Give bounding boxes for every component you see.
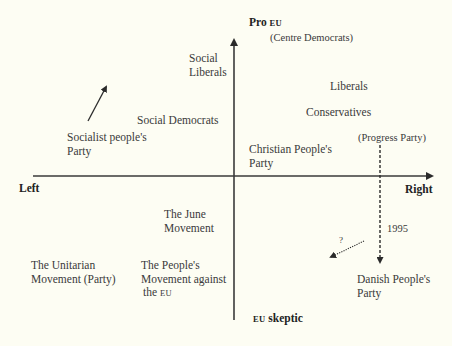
party-peoples-movement-against-eu: The People's Movement against the EU [141,259,226,301]
axis-label-pro-eu: Pro EU [249,16,282,31]
uncertain-shift-arrow [331,241,364,257]
party-danish-peoples-party: Danish People's Party [357,273,430,300]
party-liberals: Liberals [330,80,368,94]
party-social-liberals: Social Liberals [189,52,227,79]
party-socialist-peoples-party: Socialist people's Party [67,131,147,158]
socialist-shift-arrow [88,87,106,121]
year-annotation: 1995 [387,222,408,236]
axis-label-eu-skeptic: EU skeptic [253,312,303,327]
party-christian-peoples-party: Christian People's Party [249,143,332,170]
party-social-democrats: Social Democrats [137,114,218,128]
axis-label-right: Right [405,183,432,197]
party-conservatives: Conservatives [306,106,371,120]
axis-label-left: Left [19,182,39,196]
question-annotation: ? [339,234,343,248]
party-progress-party: (Progress Party) [358,131,426,145]
party-june-movement: The June Movement [164,208,214,235]
party-unitarian-movement: The Unitarian Movement (Party) [31,259,116,286]
party-centre-democrats: (Centre Democrats) [270,31,353,45]
